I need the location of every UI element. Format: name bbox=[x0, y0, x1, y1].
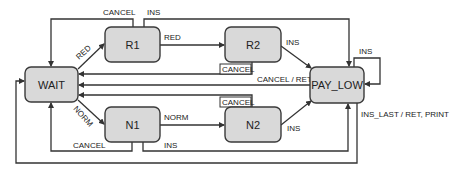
edge-r2-ins bbox=[281, 46, 311, 68]
svg-text:WAIT: WAIT bbox=[38, 79, 65, 91]
label-wait-r1: RED bbox=[74, 43, 93, 61]
state-n1: N1 bbox=[105, 107, 160, 142]
state-wait: WAIT bbox=[25, 67, 78, 102]
label-pay-low-self: INS bbox=[359, 47, 372, 56]
state-diagram: RED RED NORM NORM CANCEL INS INS CANCEL … bbox=[0, 0, 456, 173]
state-pay-low: PAY_LOW bbox=[310, 67, 364, 103]
label-r2-cancel: CANCEL bbox=[222, 65, 255, 74]
label-wait-n1: NORM bbox=[72, 104, 95, 128]
state-r1: R1 bbox=[105, 27, 160, 62]
label-n2-ins: INS bbox=[287, 124, 300, 133]
label-n2-cancel: CANCEL bbox=[222, 98, 255, 107]
svg-text:N2: N2 bbox=[246, 119, 260, 131]
label-pay-low-cancel: CANCEL / RET bbox=[257, 75, 312, 84]
label-r1-ins: INS bbox=[147, 8, 160, 17]
label-n1-n2: NORM bbox=[164, 113, 189, 122]
state-r2: R2 bbox=[225, 27, 281, 62]
svg-text:R2: R2 bbox=[246, 39, 260, 51]
label-n1-ins: INS bbox=[164, 141, 177, 150]
svg-text:R1: R1 bbox=[125, 39, 139, 51]
label-r1-r2: RED bbox=[164, 33, 181, 42]
label-pay-low-last: INS_LAST / RET, PRINT bbox=[361, 110, 449, 119]
edge-n2-ins bbox=[281, 101, 311, 125]
state-n2: N2 bbox=[225, 107, 281, 142]
label-r2-ins: INS bbox=[286, 38, 299, 47]
label-n1-cancel: CANCEL bbox=[73, 141, 106, 150]
svg-text:PAY_LOW: PAY_LOW bbox=[311, 79, 363, 91]
svg-text:N1: N1 bbox=[125, 119, 139, 131]
label-r1-cancel: CANCEL bbox=[103, 8, 136, 17]
